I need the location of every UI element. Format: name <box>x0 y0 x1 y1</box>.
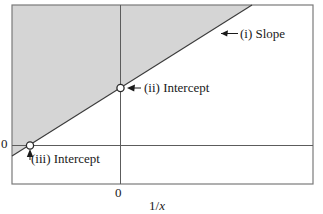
annotation-label-slope: (i) Slope <box>240 27 285 40</box>
annotation-label-intercept-ii: (ii) Intercept <box>144 81 209 94</box>
marker-intercept-iii <box>26 142 33 149</box>
y-axis-origin-tick-label: 0 <box>1 137 8 150</box>
figure-container: (i) Slope (ii) Intercept (iii) Intercept… <box>0 0 323 214</box>
x-axis-title-variable: x <box>159 198 165 213</box>
annotation-label-intercept-iii: (iii) Intercept <box>31 152 100 165</box>
x-axis-title: 1/x <box>149 199 165 212</box>
x-axis-title-numerator: 1/ <box>149 198 159 213</box>
marker-intercept-ii <box>117 84 124 91</box>
intercept-ii-annotation-leader <box>127 85 141 92</box>
slope-annotation-leader <box>221 30 238 36</box>
x-axis-origin-tick-label: 0 <box>115 186 122 199</box>
